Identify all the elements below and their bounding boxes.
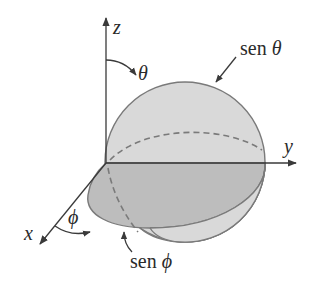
z-axis-label: z — [112, 16, 121, 38]
radiation-pattern-diagram: z y x θ ϕ sen θ sen ϕ — [0, 0, 317, 290]
sen-phi-symbol: ϕ — [162, 250, 172, 273]
theta-label: θ — [138, 62, 148, 84]
sen-phi-pointer — [124, 232, 132, 252]
y-axis-label: y — [282, 135, 293, 158]
phi-label: ϕ — [68, 206, 78, 229]
sen-theta-prefix: sen — [240, 37, 272, 59]
x-axis-label: x — [23, 222, 33, 244]
theta-arc — [106, 60, 136, 75]
sen-phi-prefix: sen — [130, 250, 162, 272]
sen-phi-label: sen ϕ — [130, 250, 172, 273]
sen-theta-pointer — [216, 57, 236, 82]
sen-theta-symbol: θ — [272, 37, 282, 59]
sen-theta-label: sen θ — [240, 37, 282, 59]
